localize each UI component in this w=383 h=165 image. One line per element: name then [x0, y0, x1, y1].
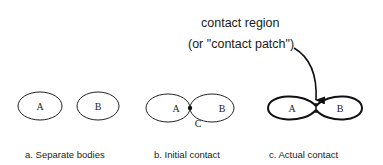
annotation-line-2: (or "contact patch"): [188, 37, 294, 51]
body-a-label: A: [172, 103, 180, 114]
body-b-label: B: [95, 101, 102, 112]
body-a-label: A: [288, 103, 296, 114]
body-b-label: B: [337, 103, 344, 114]
body-b-label: B: [219, 103, 226, 114]
panel-initial-contact: A B C b. Initial contact: [146, 94, 234, 160]
caption-a: a. Separate bodies: [25, 149, 105, 160]
annotation-line-1: contact region: [201, 16, 280, 30]
caption-b: b. Initial contact: [154, 149, 220, 160]
contact-point-dot: [188, 106, 192, 110]
panel-actual-contact: A B c. Actual contact: [268, 96, 362, 160]
body-a-label: A: [36, 101, 44, 112]
body-a-ellipse: [146, 94, 190, 122]
contact-point-label: C: [195, 118, 202, 129]
caption-c: c. Actual contact: [269, 149, 339, 160]
contact-diagram: contact region (or "contact patch") A B …: [0, 0, 383, 165]
panel-separate-bodies: A B a. Separate bodies: [18, 92, 119, 160]
arrow-icon: [294, 48, 316, 100]
